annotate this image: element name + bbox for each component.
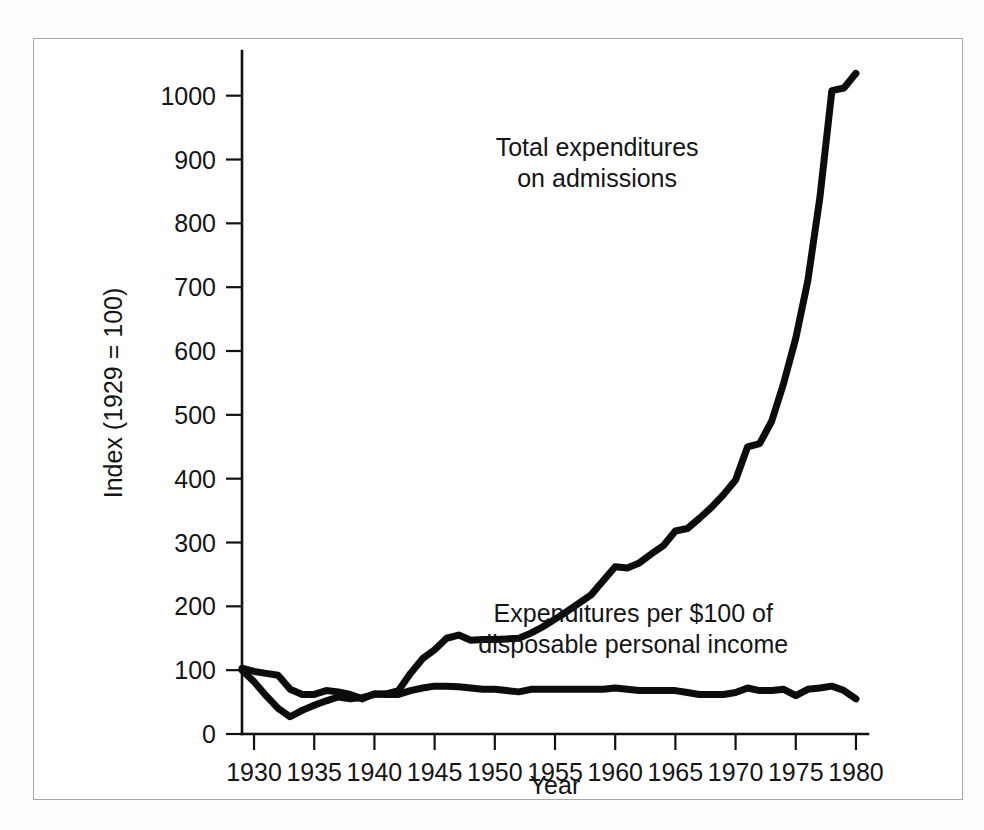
y-tick-label: 100: [174, 656, 216, 684]
x-tick-label: 1940: [347, 758, 403, 786]
x-tick-label: 1950: [467, 758, 523, 786]
x-tick-label: 1975: [768, 758, 824, 786]
total-expenditures-label: Total expenditureson admissions: [496, 133, 699, 192]
figure-border-frame: 01002003004005006007008009001000 1930193…: [33, 38, 963, 800]
expenditures-per-100-label-line-0: Expenditures per $100 of: [494, 599, 773, 627]
x-tick-label: 1935: [286, 758, 342, 786]
x-tick-label: 1965: [648, 758, 704, 786]
y-tick-label: 700: [174, 273, 216, 301]
series-line-1: [242, 668, 856, 699]
y-axis-title: Index (1929 = 100): [99, 288, 127, 499]
chart-annotations: Total expenditureson admissionsExpenditu…: [478, 133, 788, 658]
y-tick-label: 1000: [160, 82, 216, 110]
y-tick-label: 400: [174, 465, 216, 493]
expenditures-per-100-label: Expenditures per $100 ofdisposable perso…: [478, 599, 788, 658]
y-tick-label: 0: [202, 720, 216, 748]
x-tick-label: 1980: [828, 758, 884, 786]
x-tick-label: 1960: [587, 758, 643, 786]
x-tick-label: 1970: [708, 758, 764, 786]
expenditures-per-100-label-line-1: disposable personal income: [478, 630, 788, 658]
x-tick-label: 1945: [407, 758, 463, 786]
y-tick-label: 200: [174, 592, 216, 620]
x-axis-title: Year: [530, 771, 581, 798]
y-tick-label: 800: [174, 209, 216, 237]
y-tick-label: 500: [174, 401, 216, 429]
x-tick-label: 1930: [226, 758, 282, 786]
y-tick-label: 600: [174, 337, 216, 365]
y-axis-ticks: 01002003004005006007008009001000: [160, 82, 242, 748]
total-expenditures-label-line-1: on admissions: [517, 164, 677, 192]
y-tick-label: 900: [174, 146, 216, 174]
line-chart-plot: 01002003004005006007008009001000 1930193…: [34, 39, 961, 798]
figure-root: 01002003004005006007008009001000 1930193…: [0, 0, 984, 830]
y-tick-label: 300: [174, 529, 216, 557]
total-expenditures-label-line-0: Total expenditures: [496, 133, 699, 161]
